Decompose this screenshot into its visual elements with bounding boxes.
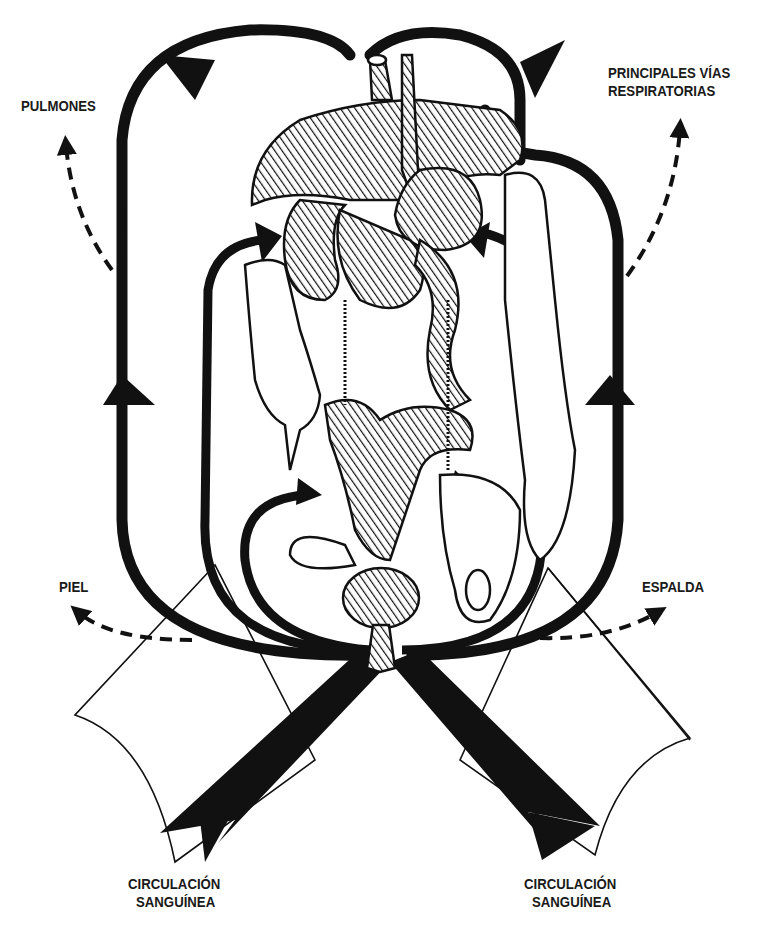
circulation-diagram [0,0,771,942]
label-circ-right-line2: SANGUÍNEA [532,893,624,911]
label-circ-right-line1: CIRCULACIÓN [524,875,616,893]
label-vias-respiratorias: PRINCIPALES VÍAS RESPIRATORIAS [608,64,747,100]
fallopian-left [290,537,355,568]
label-pulmones: PULMONES [21,97,96,115]
label-piel: PIEL [59,578,88,596]
label-circulacion-left: CIRCULACIÓN SANGUÍNEA [128,875,233,911]
label-espalda: ESPALDA [642,578,704,596]
label-vias-line2: RESPIRATORIAS [608,82,730,100]
ileum-right [415,240,470,410]
label-circ-left-line1: CIRCULACIÓN [128,875,220,893]
label-circulacion-right: CIRCULACIÓN SANGUÍNEA [524,875,629,911]
urethra [367,625,395,672]
esophagus [370,60,392,100]
liver [252,100,523,205]
label-circ-left-line2: SANGUÍNEA [136,893,228,911]
dashed-arrows [66,128,680,640]
duodenum [284,200,345,300]
dashed-arrow-pulmones [66,145,112,270]
ovary-right [466,570,490,610]
bladder [343,568,419,628]
stomach [395,168,482,250]
dashed-arrow-vias [627,128,680,276]
label-vias-line1: PRINCIPALES VÍAS [608,64,730,82]
